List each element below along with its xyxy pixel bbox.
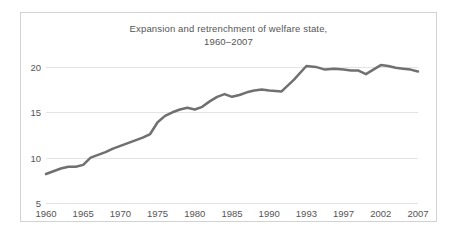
x-tick-label-1975: 1975 bbox=[147, 208, 168, 219]
x-tick-label-1970: 1970 bbox=[110, 208, 131, 219]
x-tick-label-1997: 1997 bbox=[333, 208, 354, 219]
x-tick-label-2007: 2007 bbox=[407, 208, 428, 219]
x-tick-label-1960: 1960 bbox=[35, 208, 56, 219]
plot-area: 5101520 19601965197019751980198519901993… bbox=[46, 56, 418, 203]
y-tick-label-5: 5 bbox=[36, 198, 41, 209]
y-tick-label-15: 15 bbox=[30, 107, 41, 118]
chart-title-line-2: 1960–2007 bbox=[21, 35, 436, 48]
chart-title-line-1: Expansion and retrenchment of welfare st… bbox=[21, 22, 436, 35]
y-tick-label-20: 20 bbox=[30, 61, 41, 72]
x-tick-label-1985: 1985 bbox=[221, 208, 242, 219]
x-tick-label-2002: 2002 bbox=[370, 208, 391, 219]
chart-figure: Expansion and retrenchment of welfare st… bbox=[20, 12, 437, 222]
x-tick-label-1993: 1993 bbox=[296, 208, 317, 219]
x-tick-label-1990: 1990 bbox=[259, 208, 280, 219]
x-tick-label-1965: 1965 bbox=[73, 208, 94, 219]
welfare-state-line bbox=[46, 65, 418, 174]
gridline-y-5 bbox=[46, 203, 418, 204]
x-tick-label-1980: 1980 bbox=[184, 208, 205, 219]
chart-title: Expansion and retrenchment of welfare st… bbox=[21, 22, 436, 48]
y-tick-label-10: 10 bbox=[30, 152, 41, 163]
series-line-chart bbox=[46, 56, 418, 203]
